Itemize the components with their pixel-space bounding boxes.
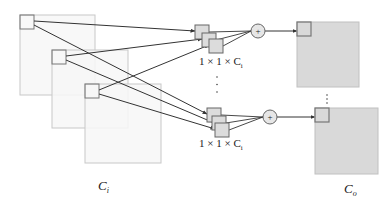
plus-icon: +: [255, 26, 260, 36]
output-channels-label: Co: [344, 181, 357, 198]
kernel-to-sum-line: [223, 31, 251, 46]
kernel-cube-2-3: [215, 123, 229, 137]
output-feature-maps: [297, 22, 378, 174]
kernel-size-label-2: 1 × 1 × Ci: [199, 137, 243, 152]
ellipsis-dot: [326, 102, 328, 104]
ellipsis-dot: [326, 94, 328, 96]
ellipsis-dot: [216, 91, 218, 93]
kernel-to-sum-line: [221, 115, 263, 117]
output-map-1: [297, 22, 359, 87]
output-ellipsis: [326, 94, 328, 104]
output-map-2: [315, 108, 378, 174]
input-feature-maps: [20, 15, 161, 163]
kernel-ellipsis: [216, 76, 218, 93]
ellipsis-dot: [216, 84, 218, 86]
conv-1x1-diagram: ++ Ci Co 1 × 1 × Ci1 × 1 × Ci: [0, 0, 391, 211]
kernel-to-sum-line: [229, 117, 263, 130]
kernel-groups: ++: [195, 24, 277, 137]
ellipsis-dot: [326, 98, 328, 100]
kernel-size-label-1: 1 × 1 × Ci: [199, 55, 243, 70]
plus-icon: +: [267, 112, 272, 122]
input-channels-label: Ci: [98, 178, 109, 195]
ellipsis-dot: [216, 76, 218, 78]
kernel-to-sum-line: [209, 31, 251, 32]
kernel-cube-1-3: [209, 39, 223, 53]
kernel-to-sum-line: [226, 117, 263, 123]
